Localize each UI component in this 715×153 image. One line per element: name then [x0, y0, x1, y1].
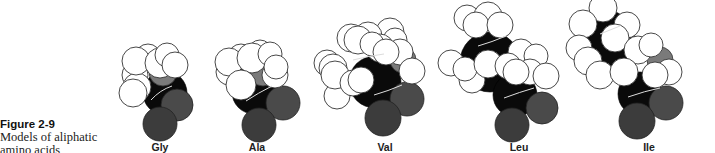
label-ile: Ile [619, 141, 679, 153]
ile-space-filling-model [0, 0, 715, 153]
